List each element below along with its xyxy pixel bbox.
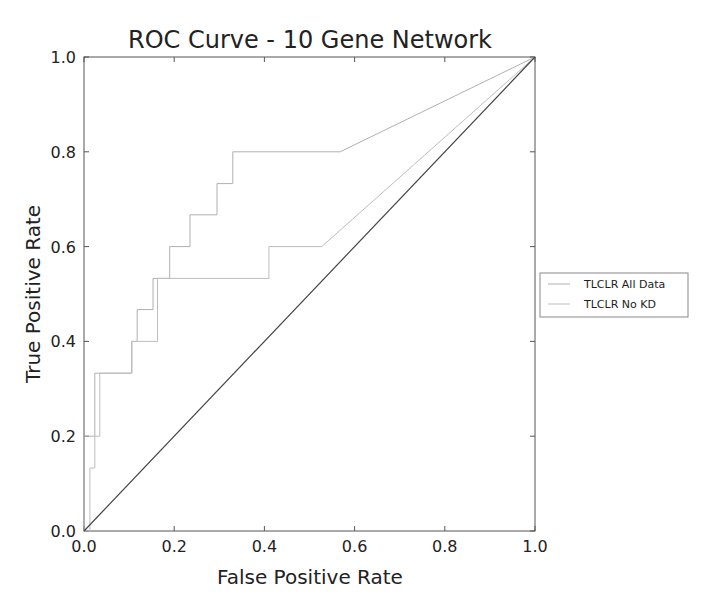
y-tick-label: 0.2	[51, 427, 76, 446]
y-tick-label: 0.8	[51, 143, 76, 162]
x-tick-labels: 0.00.20.40.60.81.0	[71, 537, 547, 556]
x-axis-label: False Positive Rate	[217, 565, 403, 589]
x-tick-label: 0.6	[342, 537, 367, 556]
chart-title: ROC Curve - 10 Gene Network	[128, 26, 492, 54]
y-tick-label: 0.4	[51, 332, 76, 351]
x-tick-label: 0.2	[161, 537, 186, 556]
y-tick-label: 1.0	[51, 48, 76, 67]
y-tick-label: 0.0	[51, 522, 76, 541]
y-tick-label: 0.6	[51, 238, 76, 257]
x-tick-label: 0.4	[252, 537, 277, 556]
y-axis-label: True Positive Rate	[21, 205, 45, 384]
x-tick-label: 1.0	[522, 537, 547, 556]
roc-chart: ROC Curve - 10 Gene Network 0.00.20.40.6…	[0, 0, 711, 610]
legend-label-all-data: TLCLR All Data	[583, 278, 665, 291]
plot-area	[84, 57, 535, 531]
legend-label-no-kd: TLCLR No KD	[583, 298, 656, 311]
y-tick-labels: 0.00.20.40.60.81.0	[51, 48, 76, 541]
legend: TLCLR All Data TLCLR No KD	[540, 273, 688, 317]
x-tick-label: 0.8	[432, 537, 457, 556]
